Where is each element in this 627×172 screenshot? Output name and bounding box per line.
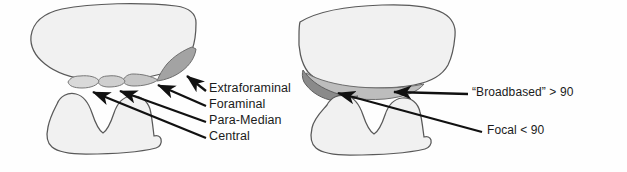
para-median-zone [98, 76, 125, 87]
label-foraminal: Foraminal [209, 98, 265, 111]
label-extraforaminal: Extraforaminal [209, 82, 291, 95]
right-posterior-arch [311, 95, 431, 155]
central-zone [68, 76, 99, 88]
label-para-median: Para-Median [209, 114, 282, 127]
diagram-canvas: Extraforaminal Foraminal Para-Median Cen… [0, 0, 627, 172]
label-broadbased: “Broadbased” > 90 [472, 86, 573, 98]
label-central: Central [209, 130, 250, 143]
left-posterior-arch [47, 93, 161, 154]
left-arrow-extraforaminal [187, 76, 206, 91]
left-arrow-foraminal [158, 85, 206, 106]
label-focal: Focal < 90 [487, 124, 544, 136]
right-vertebral-body [299, 5, 455, 88]
